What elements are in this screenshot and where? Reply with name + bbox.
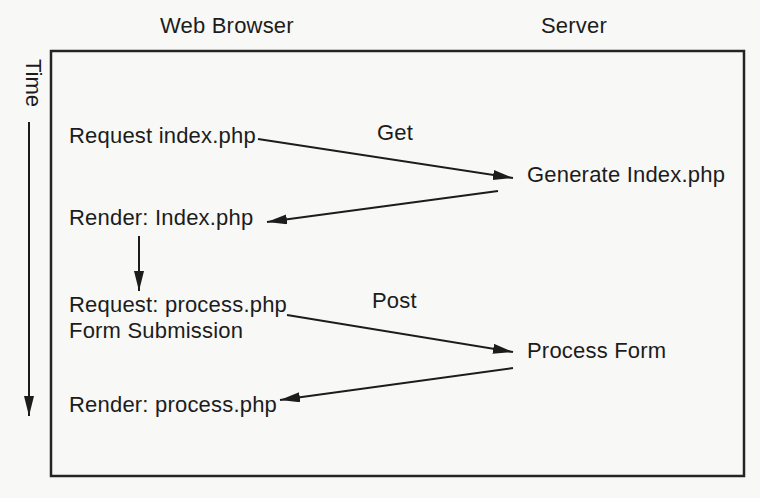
event-process-form: Process Form — [527, 338, 666, 364]
event-request-process-line2: Form Submission — [69, 318, 287, 344]
participant-label-server: Server — [541, 13, 607, 39]
event-request-process: Request: process.php Form Submission — [69, 292, 287, 344]
message-label-post: Post — [372, 288, 417, 314]
participant-label-web-browser: Web Browser — [160, 13, 294, 39]
event-render-index: Render: Index.php — [69, 205, 253, 231]
event-generate-index: Generate Index.php — [527, 162, 725, 188]
time-axis-label: Time — [21, 59, 45, 107]
post-request-arrow — [287, 315, 513, 352]
sequence-diagram: Web Browser Server Time Request index.ph… — [0, 0, 760, 498]
event-request-process-line1: Request: process.php — [69, 292, 287, 318]
diagram-graphics-layer — [0, 0, 760, 498]
event-request-index: Request index.php — [69, 123, 256, 149]
message-label-get: Get — [377, 120, 413, 146]
process-response-arrow — [280, 368, 513, 400]
event-render-process: Render: process.php — [69, 392, 277, 418]
index-response-arrow — [267, 191, 498, 222]
